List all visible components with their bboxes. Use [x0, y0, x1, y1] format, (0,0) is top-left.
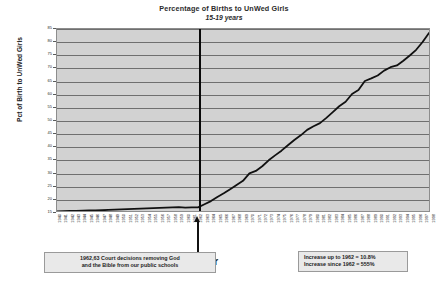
y-tick-label: 30 — [48, 171, 52, 175]
y-tick-label: 45 — [48, 131, 52, 135]
annotation-court-line1: 1962,63 Court decisions removing God — [48, 255, 212, 262]
x-tick-label: 1995 — [412, 214, 416, 223]
x-tick-label: 1961 — [193, 214, 197, 223]
annotation-court-decisions: 1962,63 Court decisions removing God and… — [44, 252, 216, 273]
annotation-increase-line2: Increase since 1962 = 555% — [304, 261, 404, 268]
x-tick-label: 1956 — [161, 214, 165, 223]
x-tick-label: 1998 — [432, 214, 436, 223]
x-tick-label: 1965 — [219, 214, 223, 223]
x-tick-label: 1953 — [141, 214, 145, 223]
x-tick-label: 1975 — [283, 214, 287, 223]
x-tick-label: 1942 — [71, 214, 75, 223]
x-tick-label: 1959 — [180, 214, 184, 223]
x-tick-label: 1941 — [64, 214, 68, 223]
x-tick-label: 1983 — [335, 214, 339, 223]
x-tick-label: 1985 — [348, 214, 352, 223]
x-tick-label: 1962 — [199, 214, 203, 223]
y-tick-label: 85 — [48, 26, 52, 30]
chart-title: Percentage of Births to UnWed Girls — [0, 4, 448, 13]
x-tick-label: 1940 — [58, 214, 62, 223]
x-tick-label: 1974 — [277, 214, 281, 223]
event-marker-line — [199, 28, 201, 212]
x-tick-label: 1981 — [322, 214, 326, 223]
x-tick-label: 1944 — [83, 214, 87, 223]
x-tick-label: 1977 — [296, 214, 300, 223]
x-tick-label: 1989 — [374, 214, 378, 223]
y-tick-label: 50 — [48, 118, 52, 122]
x-tick-label: 1943 — [77, 214, 81, 223]
x-tick-label: 1946 — [96, 214, 100, 223]
x-tick-label: 1949 — [116, 214, 120, 223]
y-tick-label: 75 — [48, 52, 52, 56]
x-tick-label: 1952 — [135, 214, 139, 223]
x-tick-label: 1948 — [109, 214, 113, 223]
chart-title-block: Percentage of Births to UnWed Girls 15-1… — [0, 4, 448, 22]
x-tick-label: 1993 — [399, 214, 403, 223]
x-tick-label: 1969 — [245, 214, 249, 223]
annotation-increase-stats: Increase up to 1962 = 10.8% Increase sin… — [298, 251, 408, 272]
y-tick-label: 15 — [48, 210, 52, 214]
x-tick-label: 1963 — [206, 214, 210, 223]
x-tick-label: 1980 — [316, 214, 320, 223]
y-axis-title: Pct of Birth to UnWed Girls — [16, 25, 23, 135]
x-tick-label: 1972 — [264, 214, 268, 223]
y-tick-mark — [53, 212, 56, 213]
y-tick-label: 25 — [48, 184, 52, 188]
data-line — [57, 33, 429, 211]
x-tick-label: 1971 — [258, 214, 262, 223]
x-tick-label: 1966 — [225, 214, 229, 223]
x-tick-label: 1997 — [425, 214, 429, 223]
x-tick-label: 1978 — [303, 214, 307, 223]
annotation-increase-line1: Increase up to 1962 = 10.8% — [304, 254, 404, 261]
x-tick-label: 1996 — [419, 214, 423, 223]
x-tick-label: 1947 — [103, 214, 107, 223]
y-tick-label: 60 — [48, 92, 52, 96]
x-tick-label: 1950 — [122, 214, 126, 223]
y-tick-label: 80 — [48, 39, 52, 43]
y-tick-label: 65 — [48, 79, 52, 83]
annotation-court-line2: and the Bible from our public schools — [48, 262, 212, 269]
y-tick-label: 35 — [48, 157, 52, 161]
x-tick-label: 1986 — [354, 214, 358, 223]
y-tick-label: 70 — [48, 65, 52, 69]
y-tick-label: 20 — [48, 197, 52, 201]
y-axis-ticks: 858075706560555045403530252015 — [30, 28, 54, 212]
x-tick-label: 1967 — [232, 214, 236, 223]
x-tick-label: 1970 — [251, 214, 255, 223]
x-tick-label: 1960 — [187, 214, 191, 223]
x-tick-label: 1973 — [270, 214, 274, 223]
x-tick-label: 1991 — [386, 214, 390, 223]
x-tick-label: 1982 — [328, 214, 332, 223]
x-tick-label: 1957 — [167, 214, 171, 223]
x-tick-label: 1976 — [290, 214, 294, 223]
plot-area — [56, 28, 430, 212]
x-tick-label: 1979 — [309, 214, 313, 223]
x-tick-label: 1988 — [367, 214, 371, 223]
x-tick-label: 1994 — [406, 214, 410, 223]
x-tick-label: 1951 — [129, 214, 133, 223]
x-tick-label: 1955 — [154, 214, 158, 223]
chart-subtitle: 15-19 years — [0, 13, 448, 22]
x-tick-label: 1954 — [148, 214, 152, 223]
x-tick-label: 1964 — [212, 214, 216, 223]
x-tick-label: 1958 — [174, 214, 178, 223]
data-line-series — [57, 29, 429, 211]
x-tick-label: 1992 — [393, 214, 397, 223]
x-tick-label: 1968 — [238, 214, 242, 223]
x-tick-label: 1990 — [380, 214, 384, 223]
x-axis-ticks: 1940194119421943194419451946194719481949… — [56, 214, 430, 244]
x-tick-label: 1984 — [341, 214, 345, 223]
x-tick-label: 1987 — [361, 214, 365, 223]
x-tick-label: 1945 — [90, 214, 94, 223]
y-tick-label: 40 — [48, 144, 52, 148]
chart-container: Percentage of Births to UnWed Girls 15-1… — [0, 0, 448, 290]
y-tick-label: 55 — [48, 105, 52, 109]
